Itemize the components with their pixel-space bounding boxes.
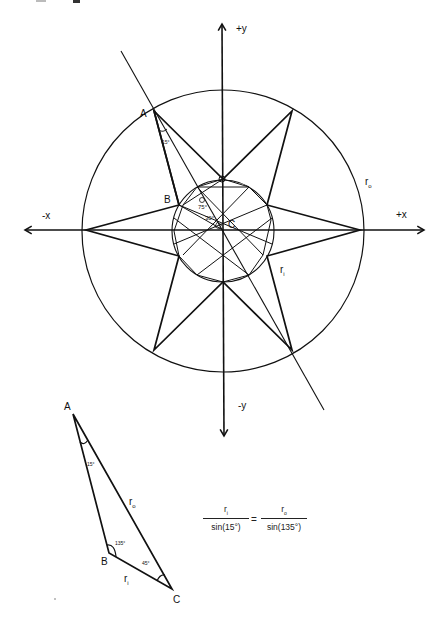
stray-dot (54, 598, 55, 599)
equation-right-fraction: ro sin(135°) (261, 504, 307, 532)
label-point-a: A (140, 108, 147, 119)
equation-equals: = (251, 514, 257, 525)
equation-left-fraction: ri sin(15°) (203, 504, 249, 532)
triangle-angle-a-label: 15° (87, 461, 95, 467)
label-point-c: C (228, 219, 235, 230)
equation-right-denominator: sin(135°) (261, 518, 307, 532)
triangle-angle-a-arc (80, 440, 88, 444)
label-angle-a: 15° (162, 139, 170, 145)
equation-left-numerator: ri (203, 504, 249, 518)
law-of-sines-star-diagram: +y -y +x -x A B C 15° 75° 30° ro ri A B … (0, 0, 447, 628)
label-inner-radius: ri (280, 264, 285, 277)
label-pos-y: +y (236, 23, 247, 34)
triangle-angle-b-label: 135° (115, 540, 125, 546)
label-angle-b: 75° (198, 204, 208, 210)
title-fragment (36, 0, 80, 3)
triangle-angle-c-label: 45° (142, 560, 150, 566)
b-angle-marker (200, 198, 205, 203)
triangle-label-c: C (173, 594, 180, 605)
equation-right-numerator: ro (261, 504, 307, 518)
label-neg-x: -x (42, 210, 50, 221)
triangle-side-bc-label: ri (124, 573, 129, 586)
segment-ab (154, 111, 179, 205)
label-pos-x: +x (396, 209, 407, 220)
label-outer-radius: ro (365, 176, 372, 189)
triangle-side-ac-label: ro (129, 496, 136, 509)
triangle-label-a: A (64, 401, 71, 412)
label-point-b: B (164, 194, 171, 205)
triangle-label-b: B (101, 556, 108, 567)
label-neg-y: -y (238, 400, 246, 411)
label-angle-c: 30° (205, 215, 215, 221)
equation-left-denominator: sin(15°) (203, 518, 249, 532)
